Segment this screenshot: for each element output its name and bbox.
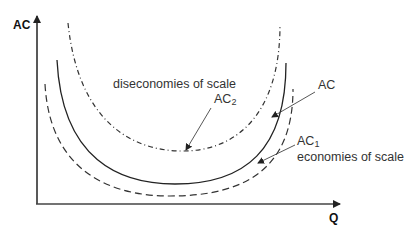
ac1-label-sub: 1 bbox=[314, 139, 319, 149]
ac1-curve bbox=[45, 84, 293, 196]
cost-curve-diagram bbox=[0, 0, 412, 233]
ac1-label: AC1 bbox=[297, 135, 319, 149]
ac-label: AC bbox=[318, 79, 335, 92]
y-axis-label: AC bbox=[13, 19, 30, 31]
ac-pointer-arrow bbox=[272, 92, 315, 117]
ac1-description: economies of scale bbox=[297, 151, 404, 164]
ac2-description: diseconomies of scale bbox=[113, 78, 236, 91]
ac2-label-main: AC bbox=[214, 92, 231, 106]
x-axis-label: Q bbox=[329, 212, 338, 224]
ac1-label-main: AC bbox=[297, 134, 314, 148]
ac2-pointer-arrow bbox=[186, 108, 211, 150]
ac2-label-sub: 2 bbox=[231, 97, 236, 107]
ac2-label: AC2 bbox=[214, 93, 236, 107]
